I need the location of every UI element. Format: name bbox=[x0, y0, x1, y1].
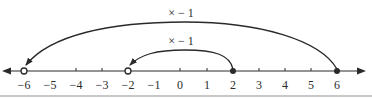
point-open-neg2 bbox=[125, 68, 131, 74]
tick-label: 1 bbox=[204, 78, 210, 92]
tick-label: 3 bbox=[256, 78, 262, 92]
arc-outer-label: × − 1 bbox=[168, 6, 194, 20]
number-line-diagram: −6 −5 −4 −3 −2 −1 0 1 2 3 4 5 6 × − 1 × … bbox=[0, 0, 372, 98]
point-open-neg6 bbox=[21, 68, 27, 74]
tick-label: −1 bbox=[148, 78, 161, 92]
tick-label: 2 bbox=[230, 78, 236, 92]
tick-label: 6 bbox=[334, 78, 340, 92]
tick-label: 4 bbox=[282, 78, 288, 92]
tick-label: 5 bbox=[308, 78, 314, 92]
axis-left-arrow-icon bbox=[2, 68, 11, 75]
tick-label: −6 bbox=[18, 78, 31, 92]
arc-inner bbox=[130, 50, 233, 69]
tick-label: 0 bbox=[177, 78, 183, 92]
arc-inner-label: × − 1 bbox=[168, 34, 194, 48]
tick-labels: −6 −5 −4 −3 −2 −1 0 1 2 3 4 5 6 bbox=[18, 78, 340, 92]
bottom-divider bbox=[0, 95, 372, 97]
axis-right-arrow-icon bbox=[357, 68, 366, 75]
tick-label: −3 bbox=[96, 78, 109, 92]
point-filled-6 bbox=[334, 68, 340, 74]
tick-label: −2 bbox=[122, 78, 135, 92]
point-filled-2 bbox=[230, 68, 236, 74]
tick-label: −4 bbox=[70, 78, 83, 92]
tick-label: −5 bbox=[44, 78, 57, 92]
